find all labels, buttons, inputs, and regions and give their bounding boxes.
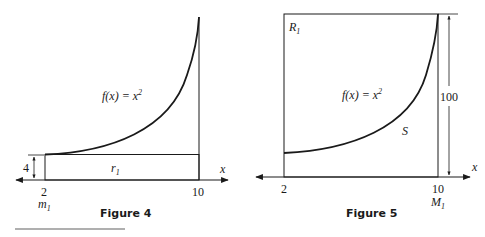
function-label: f(x) = x2 — [102, 88, 142, 103]
figure-4: 4 f(x) = x2 r1 x 2 10 m1 Figure 4 — [15, 17, 228, 229]
tick-10: 10 — [432, 182, 444, 196]
rectangle-r1 — [45, 155, 199, 181]
function-label: f(x) = x2 — [342, 87, 382, 102]
tick-10: 10 — [192, 185, 204, 199]
region-R1-label: R1 — [288, 20, 300, 36]
height-100-label: 100 — [440, 90, 458, 104]
curve-x-squared — [284, 14, 438, 153]
figure-4-caption: Figure 4 — [100, 207, 152, 220]
figure-5: 100 R1 f(x) = x2 S x 2 10 M1 Figure 5 — [256, 14, 478, 220]
region-r1-label: r1 — [111, 161, 120, 177]
x-axis-label: x — [219, 162, 226, 176]
figure-5-caption: Figure 5 — [346, 207, 397, 220]
area-S-label: S — [402, 124, 408, 138]
figures-canvas: 4 f(x) = x2 r1 x 2 10 m1 Figure 4 100 R1… — [0, 0, 485, 237]
x-axis-label: x — [471, 160, 478, 174]
point-M1-label: M1 — [430, 195, 445, 211]
point-m1-label: m1 — [38, 197, 51, 213]
height-4-label: 4 — [23, 161, 29, 175]
tick-2: 2 — [281, 182, 287, 196]
curve-x-squared — [45, 17, 199, 155]
